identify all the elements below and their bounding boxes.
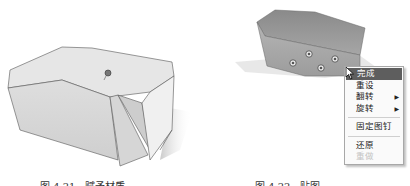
caption-number: 图 4.22: [255, 181, 290, 186]
figure-apply-material: 图 4.21 赋予材质: [0, 0, 205, 186]
submenu-arrow-icon: ▶: [394, 103, 399, 115]
menu-item-reset[interactable]: 重设: [345, 80, 403, 92]
context-menu: 完成 重设 翻转▶ 旋转▶ 固定图钉 还原 重做: [344, 66, 404, 165]
pin-icon[interactable]: [318, 65, 324, 71]
pin-icon[interactable]: [332, 56, 338, 62]
menu-item-label: 旋转: [356, 103, 374, 113]
figure-caption: 图 4.21 赋予材质: [40, 178, 125, 186]
submenu-arrow-icon: ▶: [394, 91, 399, 103]
menu-item-flip[interactable]: 翻转▶: [345, 91, 403, 103]
menu-item-fixed-pins[interactable]: 固定图钉: [345, 121, 403, 133]
menu-separator: [348, 136, 400, 137]
stone-block-model: [0, 0, 205, 186]
pin-icon[interactable]: [290, 60, 296, 66]
menu-item-label: 翻转: [356, 91, 374, 101]
menu-separator: [348, 117, 400, 118]
menu-item-label: 重设: [356, 80, 374, 90]
figure-caption: 图 4.22 贴图: [255, 178, 320, 186]
caption-number: 图 4.21: [40, 181, 75, 186]
menu-item-rotate[interactable]: 旋转▶: [345, 103, 403, 115]
menu-item-label: 还原: [356, 140, 374, 150]
mouse-cursor-icon: [345, 66, 355, 80]
menu-item-label: 重做: [356, 151, 374, 161]
figure-texture-mapping: 完成 重设 翻转▶ 旋转▶ 固定图钉 还原 重做 图 4.22 贴图: [205, 0, 410, 186]
pin-icon[interactable]: [306, 51, 312, 57]
menu-item-label: 完成: [357, 68, 375, 78]
menu-item-redo: 重做: [345, 151, 403, 163]
caption-title: 贴图: [300, 181, 320, 186]
menu-item-undo[interactable]: 还原: [345, 140, 403, 152]
menu-item-label: 固定图钉: [356, 121, 392, 131]
caption-title: 赋予材质: [85, 181, 125, 186]
